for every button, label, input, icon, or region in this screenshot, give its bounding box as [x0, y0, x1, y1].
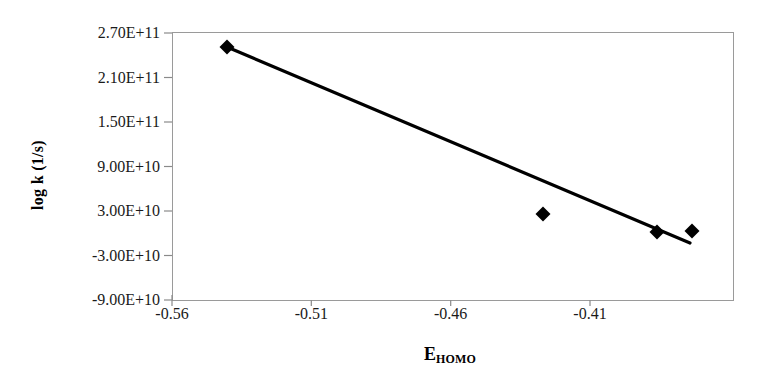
x-tick-label: -0.56	[127, 306, 217, 322]
x-tick-label: -0.41	[545, 306, 635, 322]
y-axis-title: log k (1/s)	[29, 85, 47, 265]
y-tick-label: 3.00E+10	[97, 203, 160, 219]
x-axis-title-main: E	[424, 344, 436, 364]
y-axis-tick-labels: 2.70E+11 2.10E+11 1.50E+11 9.00E+10 3.00…	[48, 0, 160, 388]
y-tick-label: 2.10E+11	[98, 70, 160, 86]
y-tick-label: 9.00E+10	[97, 159, 160, 175]
y-tick-label: 1.50E+11	[98, 114, 160, 130]
y-axis-ticks	[164, 33, 172, 300]
y-tick-label: -3.00E+10	[92, 248, 160, 264]
x-axis-title: EHOMO	[310, 344, 590, 367]
x-tick-label: -0.51	[266, 306, 356, 322]
chart-figure: 2.70E+11 2.10E+11 1.50E+11 9.00E+10 3.00…	[0, 0, 764, 388]
x-tick-label: -0.46	[406, 306, 496, 322]
y-tick-label: 2.70E+11	[98, 25, 160, 41]
plot-frame	[173, 33, 734, 301]
x-axis-title-subscript: HOMO	[436, 352, 476, 366]
